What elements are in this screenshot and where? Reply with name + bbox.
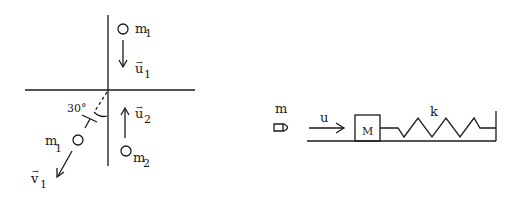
v1-vector-mark: → — [32, 167, 39, 176]
spring-constant-label: k — [430, 104, 438, 119]
bullet-velocity-label: u — [320, 110, 328, 125]
trajectory-dashed-line — [95, 92, 107, 111]
u2-sub: 2 — [144, 113, 151, 126]
bullet-mass-label: m — [275, 101, 287, 116]
bullet-icon — [274, 124, 288, 131]
collision-labels: m 1 u → 1 30° u → 2 m 2 m 1 v → 1 — [30, 21, 152, 191]
u2-vector-mark: → — [136, 103, 143, 112]
mass-m1-out — [73, 135, 83, 145]
u1-sub: 1 — [144, 68, 151, 81]
m2-sub: 2 — [143, 157, 150, 170]
m1-top-sub: 1 — [145, 27, 152, 40]
angle-arc — [94, 112, 107, 117]
spring-k — [380, 118, 496, 137]
mass-m2 — [121, 146, 131, 156]
v1-sub: 1 — [40, 178, 47, 191]
trajectory-segment — [85, 119, 90, 128]
u1-vector-mark: → — [136, 58, 143, 67]
physics-diagrams: m 1 u → 1 30° u → 2 m 2 m 1 v → 1 m u — [0, 0, 521, 203]
angle-label: 30° — [67, 102, 87, 115]
block-label: M — [362, 125, 373, 138]
spring-labels: m u M k — [275, 101, 438, 138]
spring-diagram — [274, 111, 496, 141]
mass-m1-top — [118, 24, 128, 34]
collision-diagram — [25, 15, 195, 177]
m1-out-sub: 1 — [55, 142, 62, 155]
